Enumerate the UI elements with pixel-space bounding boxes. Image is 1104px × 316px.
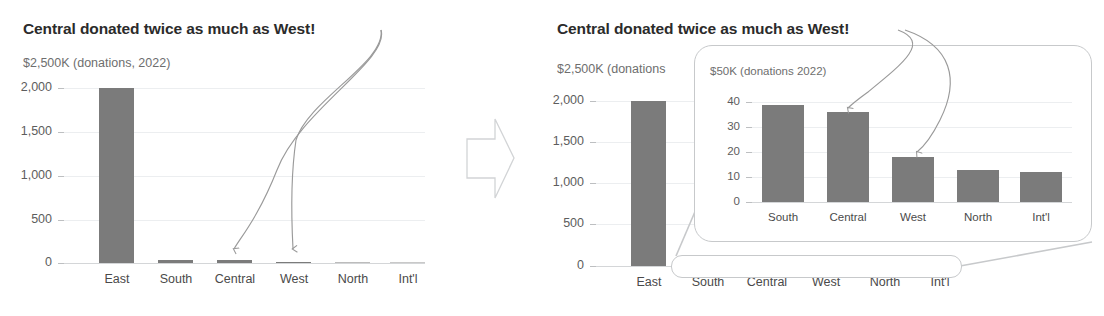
figure-canvas: Central donated twice as much as West! $… [0,0,1104,316]
inset-ytick-label-0: 0 [704,195,740,207]
inset-xtick-label-intl: Int'l [1006,211,1076,223]
right-ytick-label-0: 0 [532,258,584,272]
inset-ytick-mark-40 [746,102,752,103]
right-ytick-mark-1500 [590,142,596,143]
right-ytick-label-500: 500 [532,216,584,230]
right-bar-east [631,101,666,266]
right-chart-title: Central donated twice as much as West! [557,20,849,38]
inset-ytick-mark-10 [746,177,752,178]
right-ytick-mark-2000 [590,101,596,102]
right-ytick-mark-0 [590,266,596,267]
inset-bar-central [827,112,869,202]
inset-ytick-label-20: 20 [704,145,740,157]
inset-ytick-label-10: 10 [704,170,740,182]
inset-ytick-mark-0 [746,202,752,203]
inset-ytick-mark-20 [746,152,752,153]
inset-bar-west [892,157,934,202]
inset-bar-north [957,170,999,203]
inset-bar-south [762,105,804,203]
inset-bar-intl [1020,172,1062,202]
right-ytick-label-1500: 1,500 [532,134,584,148]
inset-ytick-mark-30 [746,127,752,128]
inset-gridline-40 [748,102,1072,103]
right-chart-subtitle: $2,500K (donations [557,62,665,76]
inset-xtick-label-north: North [943,211,1013,223]
right-ytick-mark-500 [590,224,596,225]
zoom-region-highlight-box[interactable] [671,255,962,278]
inset-chart-panel: $50K (donations 2022) 40 30 20 10 0 Sout… [694,45,1092,242]
inset-xtick-label-west: West [878,211,948,223]
inset-xtick-label-central: Central [813,211,883,223]
inset-xtick-label-south: South [748,211,818,223]
inset-chart-subtitle: $50K (donations 2022) [710,65,826,77]
right-ytick-label-1000: 1,000 [532,175,584,189]
right-ytick-mark-1000 [590,183,596,184]
inset-ytick-label-40: 40 [704,95,740,107]
right-ytick-label-2000: 2,000 [532,93,584,107]
inset-ytick-label-30: 30 [704,120,740,132]
inset-zero-axis-line [748,202,1072,203]
